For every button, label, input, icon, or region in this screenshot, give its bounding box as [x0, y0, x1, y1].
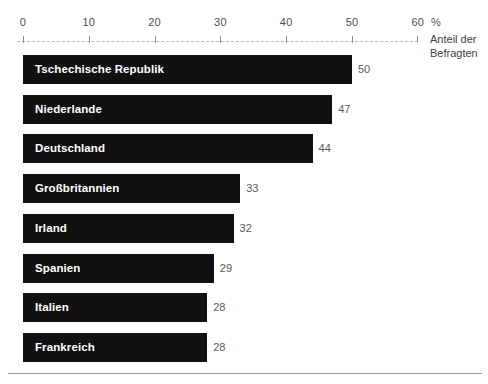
bar-group: Tschechische Republik50Niederlande47Deut…	[0, 0, 488, 370]
bar-row: Deutschland44	[0, 134, 488, 163]
bar-value-label: 47	[338, 95, 350, 124]
bar-row: Tschechische Republik50	[0, 55, 488, 84]
bar-row: Irland32	[0, 214, 488, 243]
bar-row: Spanien29	[0, 254, 488, 283]
bar-value-label: 44	[319, 134, 331, 163]
bar-value-label: 28	[213, 293, 225, 322]
bar-category-label: Irland	[35, 214, 67, 243]
bar-value-label: 32	[240, 214, 252, 243]
bar-chart: 0102030405060 % Anteil der Befragten Tsc…	[0, 0, 488, 384]
bar-value-label: 28	[213, 333, 225, 362]
bar-category-label: Tschechische Republik	[35, 55, 164, 84]
bar-category-label: Italien	[35, 293, 69, 322]
bar-category-label: Großbritannien	[35, 174, 119, 203]
footer-divider	[8, 373, 482, 374]
bar-value-label: 33	[246, 174, 258, 203]
bar-category-label: Frankreich	[35, 333, 95, 362]
bar-category-label: Niederlande	[35, 95, 102, 124]
bar-row: Niederlande47	[0, 95, 488, 124]
bar-category-label: Deutschland	[35, 134, 105, 163]
bar-row: Italien28	[0, 293, 488, 322]
bar-row: Frankreich28	[0, 333, 488, 362]
bar-category-label: Spanien	[35, 254, 80, 283]
bar-row: Großbritannien33	[0, 174, 488, 203]
bar-value-label: 29	[220, 254, 232, 283]
bar-value-label: 50	[358, 55, 370, 84]
